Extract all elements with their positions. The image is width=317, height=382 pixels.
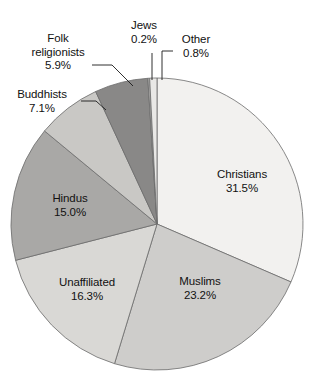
slice-label-other: Other 0.8% — [165, 33, 227, 60]
slice-label-folk-name-line2: religionists — [22, 46, 94, 60]
slice-label-christians: Christians 31.5% — [192, 168, 292, 195]
slice-label-folk-religionists: Folk religionists 5.9% — [22, 32, 94, 73]
slice-label-muslims: Muslims 23.2% — [150, 275, 250, 302]
pie-chart-figure: Christians 31.5% Muslims 23.2% Unaffilia… — [0, 0, 317, 382]
slice-label-hindus-name: Hindus — [24, 192, 116, 206]
slice-label-muslims-name: Muslims — [150, 275, 250, 289]
slice-label-buddhists: Buddhists 7.1% — [2, 88, 82, 115]
slice-label-christians-value: 31.5% — [192, 182, 292, 196]
slice-label-other-name: Other — [165, 33, 227, 47]
slice-label-christians-name: Christians — [192, 168, 292, 182]
slice-label-buddhists-name: Buddhists — [2, 88, 82, 102]
slice-label-folk-name-line1: Folk — [22, 32, 94, 46]
pie-slice-group — [11, 78, 303, 370]
slice-label-hindus-value: 15.0% — [24, 206, 116, 220]
slice-label-unaffiliated-value: 16.3% — [35, 290, 139, 304]
slice-label-unaffiliated-name: Unaffiliated — [35, 276, 139, 290]
slice-label-folk-value: 5.9% — [22, 59, 94, 73]
slice-label-unaffiliated: Unaffiliated 16.3% — [35, 276, 139, 303]
slice-label-muslims-value: 23.2% — [150, 289, 250, 303]
slice-label-jews-name: Jews — [113, 19, 175, 33]
slice-label-buddhists-value: 7.1% — [2, 102, 82, 116]
slice-label-hindus: Hindus 15.0% — [24, 192, 116, 219]
slice-label-other-value: 0.8% — [165, 47, 227, 61]
